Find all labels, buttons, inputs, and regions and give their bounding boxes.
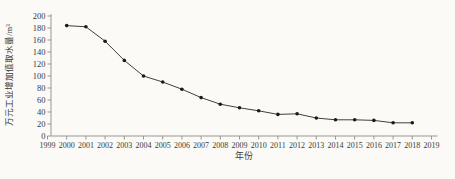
x-tick-label: 2017 bbox=[385, 141, 401, 150]
data-point bbox=[276, 113, 280, 117]
chart-svg: 0204060801001201401601802001999200020012… bbox=[0, 0, 455, 179]
data-point bbox=[161, 80, 165, 84]
x-tick-label: 2006 bbox=[174, 141, 190, 150]
data-point bbox=[219, 102, 223, 106]
x-tick-label: 1999 bbox=[40, 141, 56, 150]
x-tick-label: 2000 bbox=[59, 141, 75, 150]
y-tick-label: 100 bbox=[33, 71, 46, 81]
x-tick-label: 2010 bbox=[251, 141, 267, 150]
y-tick-label: 40 bbox=[37, 107, 46, 117]
data-point bbox=[295, 112, 299, 116]
x-tick-label: 2009 bbox=[232, 141, 248, 150]
y-tick-label: 180 bbox=[33, 23, 46, 33]
y-tick-label: 80 bbox=[37, 83, 46, 93]
y-tick-label: 20 bbox=[37, 119, 46, 129]
data-point bbox=[142, 74, 146, 78]
x-tick-label: 2019 bbox=[424, 141, 440, 150]
data-point bbox=[257, 109, 261, 113]
x-tick-label: 2001 bbox=[78, 141, 94, 150]
x-tick-label: 2004 bbox=[136, 141, 152, 150]
x-tick-label: 2014 bbox=[328, 141, 344, 150]
y-tick-label: 200 bbox=[33, 11, 46, 21]
data-point bbox=[65, 24, 69, 28]
data-point bbox=[84, 25, 88, 29]
x-tick-label: 2016 bbox=[366, 141, 382, 150]
screenshot-root: 0204060801001201401601802001999200020012… bbox=[0, 0, 455, 179]
x-tick-label: 2002 bbox=[97, 141, 113, 150]
y-tick-label: 60 bbox=[37, 95, 46, 105]
data-point bbox=[180, 87, 184, 91]
data-point bbox=[334, 118, 338, 122]
data-point bbox=[123, 59, 127, 63]
data-point bbox=[103, 39, 107, 43]
data-point bbox=[238, 106, 242, 110]
y-axis-title: 万元工业增加值取水量/m³ bbox=[4, 24, 14, 126]
x-tick-label: 2015 bbox=[347, 141, 363, 150]
x-axis-title: 年份 bbox=[235, 150, 253, 161]
data-point bbox=[391, 121, 395, 125]
data-point bbox=[353, 118, 357, 122]
x-tick-label: 2003 bbox=[116, 141, 132, 150]
data-point bbox=[372, 119, 376, 123]
y-tick-label: 120 bbox=[33, 59, 46, 69]
y-tick-label: 0 bbox=[41, 131, 45, 141]
x-tick-label: 2013 bbox=[308, 141, 324, 150]
data-point bbox=[315, 116, 319, 120]
x-tick-label: 2011 bbox=[270, 141, 286, 150]
y-tick-label: 140 bbox=[33, 47, 46, 57]
data-point bbox=[411, 121, 415, 125]
x-tick-label: 2005 bbox=[155, 141, 171, 150]
x-tick-label: 2018 bbox=[404, 141, 420, 150]
y-tick-label: 160 bbox=[33, 35, 46, 45]
data-point bbox=[199, 96, 203, 100]
line-chart-figure: 0204060801001201401601802001999200020012… bbox=[0, 0, 455, 179]
x-tick-label: 2012 bbox=[289, 141, 305, 150]
x-tick-label: 2008 bbox=[212, 141, 228, 150]
x-tick-label: 2007 bbox=[193, 141, 209, 150]
